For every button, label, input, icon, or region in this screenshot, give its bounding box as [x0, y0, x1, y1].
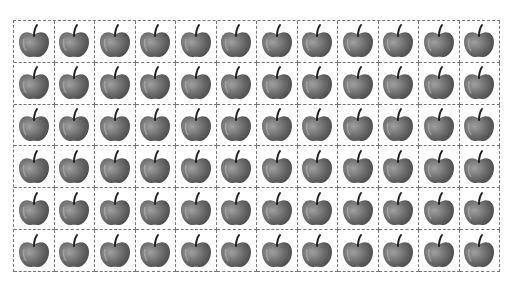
apple-icon: [300, 65, 334, 101]
apple-icon: [341, 65, 375, 101]
grid-cell: [217, 63, 258, 105]
apple-icon: [138, 23, 172, 59]
apple-icon: [300, 107, 334, 143]
apple-icon: [462, 149, 496, 185]
grid-cell: [338, 188, 379, 230]
apple-icon: [179, 23, 213, 59]
apple-icon: [98, 107, 132, 143]
grid-cell: [95, 105, 136, 147]
apple-icon: [57, 149, 91, 185]
grid-cell: [257, 230, 298, 272]
apple-icon: [260, 107, 294, 143]
grid-cell: [55, 105, 96, 147]
apple-icon: [462, 191, 496, 227]
grid-cell: [460, 188, 501, 230]
apple-counting-grid: [13, 20, 500, 272]
apple-icon: [422, 191, 456, 227]
grid-cell: [14, 21, 55, 63]
apple-icon: [260, 149, 294, 185]
apple-icon: [260, 191, 294, 227]
grid-cell: [379, 105, 420, 147]
apple-icon: [219, 65, 253, 101]
apple-icon: [57, 107, 91, 143]
grid-cell: [95, 146, 136, 188]
grid-cell: [379, 230, 420, 272]
grid-cell: [419, 63, 460, 105]
grid-cell: [136, 63, 177, 105]
apple-icon: [260, 233, 294, 269]
grid-cell: [217, 146, 258, 188]
grid-cell: [379, 63, 420, 105]
apple-icon: [98, 149, 132, 185]
grid-cell: [55, 63, 96, 105]
apple-icon: [98, 233, 132, 269]
grid-cell: [379, 188, 420, 230]
grid-cell: [419, 21, 460, 63]
apple-icon: [381, 23, 415, 59]
apple-icon: [138, 233, 172, 269]
apple-icon: [219, 23, 253, 59]
grid-cell: [298, 105, 339, 147]
apple-icon: [381, 107, 415, 143]
grid-cell: [257, 146, 298, 188]
grid-cell: [460, 21, 501, 63]
apple-icon: [462, 23, 496, 59]
apple-icon: [179, 233, 213, 269]
grid-cell: [419, 188, 460, 230]
grid-cell: [379, 21, 420, 63]
grid-cell: [338, 146, 379, 188]
apple-icon: [462, 233, 496, 269]
apple-icon: [57, 191, 91, 227]
apple-icon: [341, 233, 375, 269]
apple-icon: [219, 233, 253, 269]
grid-cell: [338, 21, 379, 63]
apple-icon: [300, 233, 334, 269]
apple-icon: [179, 65, 213, 101]
grid-cell: [460, 230, 501, 272]
apple-icon: [462, 107, 496, 143]
apple-icon: [300, 149, 334, 185]
apple-icon: [381, 65, 415, 101]
apple-icon: [300, 191, 334, 227]
apple-icon: [341, 107, 375, 143]
grid-cell: [136, 230, 177, 272]
apple-icon: [138, 191, 172, 227]
apple-icon: [381, 233, 415, 269]
apple-icon: [422, 149, 456, 185]
apple-icon: [138, 107, 172, 143]
grid-cell: [217, 188, 258, 230]
apple-icon: [422, 23, 456, 59]
apple-icon: [17, 23, 51, 59]
grid-cell: [257, 63, 298, 105]
grid-cell: [379, 146, 420, 188]
apple-icon: [138, 149, 172, 185]
grid-cell: [460, 146, 501, 188]
grid-cell: [55, 146, 96, 188]
grid-cell: [55, 230, 96, 272]
apple-icon: [300, 23, 334, 59]
grid-cell: [338, 230, 379, 272]
apple-icon: [422, 233, 456, 269]
apple-icon: [260, 65, 294, 101]
apple-icon: [179, 191, 213, 227]
grid-cell: [55, 21, 96, 63]
grid-cell: [55, 188, 96, 230]
grid-cell: [136, 146, 177, 188]
apple-icon: [219, 107, 253, 143]
apple-icon: [341, 23, 375, 59]
apple-icon: [219, 191, 253, 227]
grid-cell: [419, 146, 460, 188]
apple-icon: [98, 65, 132, 101]
apple-icon: [260, 23, 294, 59]
apple-icon: [138, 65, 172, 101]
apple-icon: [219, 149, 253, 185]
apple-icon: [17, 149, 51, 185]
apple-icon: [17, 65, 51, 101]
grid-cell: [217, 21, 258, 63]
apple-icon: [422, 107, 456, 143]
apple-icon: [381, 149, 415, 185]
grid-cell: [298, 21, 339, 63]
grid-cell: [14, 146, 55, 188]
grid-cell: [419, 230, 460, 272]
apple-icon: [57, 65, 91, 101]
